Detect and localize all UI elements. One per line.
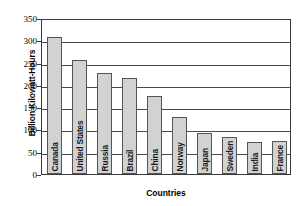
bar-category-label: Brazil <box>125 149 133 171</box>
bar[interactable]: Japan <box>197 133 212 174</box>
bar[interactable]: China <box>147 96 162 174</box>
bar-slot: France <box>267 18 292 174</box>
y-axis-tick-label: 150 <box>1 103 37 113</box>
bar-slot: China <box>142 18 167 174</box>
bar[interactable]: Brazil <box>122 78 137 174</box>
bar-slot: Russia <box>92 18 117 174</box>
bar-category-label: France <box>275 145 283 171</box>
bar[interactable]: Norway <box>172 117 187 174</box>
bar-category-label: United States <box>75 120 83 171</box>
bar-category-label: Canada <box>50 142 58 171</box>
bar-category-label: Japan <box>200 148 208 171</box>
bars-layer: CanadaUnited StatesRussiaBrazilChinaNorw… <box>42 20 290 174</box>
bar[interactable]: India <box>247 142 262 174</box>
bar[interactable]: Russia <box>97 73 112 174</box>
bar-category-label: India <box>250 152 258 171</box>
bar[interactable]: United States <box>72 60 87 174</box>
bar-slot: Sweden <box>217 18 242 174</box>
y-axis-tick-mark <box>37 175 41 176</box>
bar-slot: Norway <box>167 18 192 174</box>
bar-category-label: Russia <box>100 145 108 171</box>
plot-area: CanadaUnited StatesRussiaBrazilChinaNorw… <box>41 19 291 175</box>
y-axis-tick-label: 200 <box>1 81 37 91</box>
y-axis-tick-label: 300 <box>1 36 37 46</box>
bar-slot: Brazil <box>117 18 142 174</box>
y-axis-tick-label: 50 <box>1 148 37 158</box>
bar[interactable]: Canada <box>47 37 62 174</box>
y-axis-tick-label: 100 <box>1 125 37 135</box>
y-axis-tick-label: 0 <box>1 170 37 180</box>
x-axis-title: Countries <box>41 188 291 198</box>
bar-category-label: Norway <box>175 142 183 171</box>
bar-slot: Canada <box>42 18 67 174</box>
bar-slot: United States <box>67 18 92 174</box>
y-axis-tick-label: 250 <box>1 59 37 69</box>
bar-category-label: Sweden <box>225 141 233 171</box>
bar-chart-figure: Billion Kilowatt-Hours 05010015020025030… <box>0 0 303 206</box>
bar[interactable]: France <box>272 141 287 174</box>
bar-slot: Japan <box>192 18 217 174</box>
y-axis-tick-label: 350 <box>1 14 37 24</box>
bar-slot: India <box>242 18 267 174</box>
bar[interactable]: Sweden <box>222 137 237 174</box>
bar-category-label: China <box>150 149 158 171</box>
